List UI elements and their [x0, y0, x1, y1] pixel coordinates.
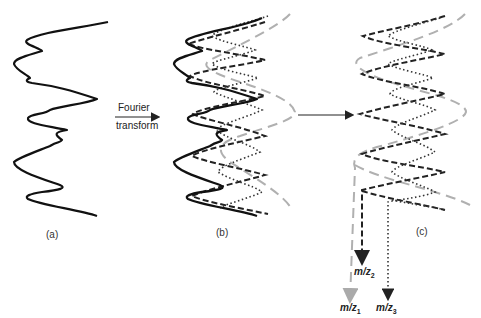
panel-label-b: (b) [216, 227, 228, 238]
component-mz1-c-tail [355, 165, 470, 205]
component-mz1-b [206, 14, 295, 210]
composite-signal-b [174, 18, 262, 216]
mz1-label: m/z1 [340, 302, 361, 315]
composite-signal-a [14, 22, 108, 216]
mz2-label: m/z2 [354, 266, 375, 279]
fourier-transform-label: Fourier [118, 102, 150, 114]
fourier-label-line2: transform [116, 120, 158, 131]
diagram-canvas [0, 0, 481, 318]
transform-label: transform [116, 120, 158, 132]
panel-label-a: (a) [46, 229, 58, 240]
fourier-label-line1: Fourier [118, 102, 150, 113]
component-mz3-b [212, 16, 268, 208]
mz3-label: m/z3 [376, 302, 397, 315]
panel-label-c: (c) [416, 226, 428, 237]
